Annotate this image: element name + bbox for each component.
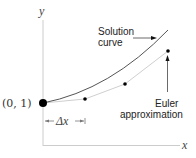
euler-method-diagram: y x (0, 1) Δx Solution curve Euler appro… [0, 0, 196, 158]
y-axis-label: y [38, 4, 45, 18]
euler-point-2 [123, 82, 127, 86]
solution-curve-label-line1: Solution [98, 26, 134, 37]
start-point [39, 99, 47, 107]
start-point-label: (0, 1) [2, 97, 32, 110]
solution-arrow-head [151, 36, 157, 40]
euler-label-line2: approximation [120, 109, 183, 120]
euler-arrow-head [166, 55, 170, 61]
euler-point-1 [83, 97, 87, 101]
euler-polyline [43, 51, 168, 103]
solution-curve-label-line2: curve [98, 37, 123, 48]
step-label: Δx [55, 114, 69, 128]
euler-label-line1: Euler [155, 98, 179, 109]
euler-point-3 [166, 49, 170, 53]
x-axis-label: x [181, 138, 188, 152]
